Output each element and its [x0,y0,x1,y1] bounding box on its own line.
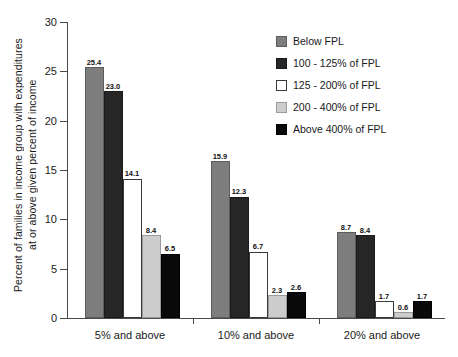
bar-value-label: 6.5 [165,245,175,253]
x-tick-mark [319,318,320,324]
x-tick-mark [193,318,194,324]
bar-value-label: 6.7 [253,243,263,251]
legend-label: 200 - 400% of FPL [293,102,381,113]
y-tick-label: 30 [0,17,67,28]
bar-value-label: 1.7 [417,293,427,301]
legend-swatch-icon [276,124,287,135]
bar: 8.4 [142,235,161,318]
legend: Below FPL100 - 125% of FPL125 - 200% of … [276,30,451,140]
legend-item[interactable]: 125 - 200% of FPL [276,74,451,96]
x-category-label: 5% and above [67,330,193,341]
bar-value-label: 12.3 [232,188,247,196]
bar-value-label: 8.4 [146,227,156,235]
bar-group: 25.423.014.18.46.5 [85,22,180,318]
legend-label: Above 400% of FPL [293,124,386,135]
y-tick-label: 15 [0,165,67,176]
bar-value-label: 15.9 [213,153,228,161]
legend-item[interactable]: 200 - 400% of FPL [276,96,451,118]
legend-item[interactable]: Below FPL [276,30,451,52]
bar: 12.3 [230,197,249,318]
bar-value-label: 8.4 [360,227,370,235]
bar-value-label: 2.3 [272,287,282,295]
legend-swatch-icon [276,80,287,91]
bar: 1.7 [413,301,432,318]
bar: 15.9 [211,161,230,318]
bar: 23.0 [104,91,123,318]
y-tick-label: 20 [0,116,67,127]
y-tick-label: 25 [0,66,67,77]
bar: 8.7 [337,232,356,318]
bar-value-label: 25.4 [87,59,102,67]
bar-value-label: 2.6 [291,284,301,292]
legend-swatch-icon [276,36,287,47]
bar: 1.7 [375,301,394,318]
bar: 14.1 [123,179,142,318]
x-category-label: 20% and above [319,330,445,341]
y-tick-label: 10 [0,214,67,225]
legend-label: 125 - 200% of FPL [293,80,381,91]
bar: 6.7 [249,252,268,318]
y-tick-label: 0 [0,313,67,324]
legend-label: 100 - 125% of FPL [293,58,381,69]
bar-value-label: 0.6 [398,304,408,312]
legend-swatch-icon [276,58,287,69]
bar-value-label: 14.1 [125,170,140,178]
legend-swatch-icon [276,102,287,113]
x-axis-line [67,318,445,319]
y-tick-label: 5 [0,264,67,275]
bar-value-label: 23.0 [106,83,121,91]
x-category-label: 10% and above [193,330,319,341]
bar-chart: Percent of families in income group with… [0,0,458,357]
legend-item[interactable]: 100 - 125% of FPL [276,52,451,74]
bar-value-label: 1.7 [379,293,389,301]
bar: 8.4 [356,235,375,318]
legend-label: Below FPL [293,36,344,47]
bar: 2.6 [287,292,306,318]
legend-item[interactable]: Above 400% of FPL [276,118,451,140]
bar: 6.5 [161,254,180,318]
bar: 25.4 [85,67,104,318]
bar: 2.3 [268,295,287,318]
bar: 0.6 [394,312,413,318]
bar-value-label: 8.7 [341,224,351,232]
